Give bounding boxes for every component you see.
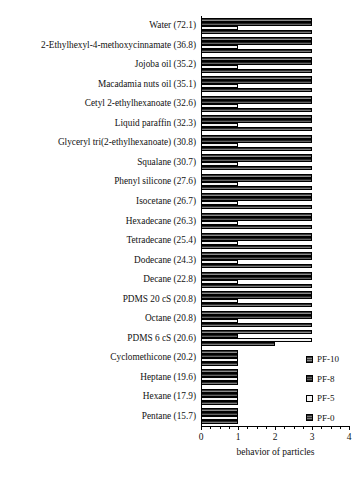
x-tick-minor [303,426,304,429]
x-tick-label: 3 [302,432,322,443]
legend-item: PF-10 [306,354,339,364]
bar-chart: Water (72.1)2-Ethylhexyl-4-methoxycinnam… [0,0,363,478]
x-tick-minor [247,426,248,429]
bar-pf-0 [201,381,238,385]
bar-group [201,328,349,348]
bar-pf-0 [201,362,238,366]
category-label: Pentane (15.7) [0,411,196,421]
bar-pf-0 [201,166,312,170]
bar-group [201,309,349,329]
x-tick-minor [220,426,221,429]
x-tick-minor [257,426,258,429]
bar-pf-0 [201,147,312,151]
x-tick-label: 0 [191,432,211,443]
x-tick-minor [229,426,230,429]
category-label: Squalane (30.7) [0,157,196,167]
category-label: Isocetane (26.7) [0,196,196,206]
category-label: Water (72.1) [0,20,196,30]
legend-label: PF-0 [317,413,335,423]
bar-group [201,192,349,212]
category-label: Liquid paraffin (32.3) [0,118,196,128]
x-tick-minor [266,426,267,429]
bar-pf-0 [201,49,312,53]
bar-pf-0 [201,420,238,424]
bar-group [201,94,349,114]
bar-group [201,289,349,309]
bar-group [201,75,349,95]
category-label: Macadamia nuts oil (35.1) [0,79,196,89]
bar-pf-0 [201,69,312,73]
bar-pf-0 [201,108,312,112]
legend-swatch-pf-5 [306,395,313,402]
bar-pf-0 [201,30,312,34]
bar-group [201,153,349,173]
bar-pf-0 [201,245,312,249]
category-label: Heptane (19.6) [0,372,196,382]
x-tick [201,426,202,430]
bar-pf-0 [201,303,312,307]
legend-item: PF-0 [306,413,339,423]
x-tick-minor [210,426,211,429]
bar-group [201,36,349,56]
legend-label: PF-8 [317,374,335,384]
legend-item: PF-5 [306,393,339,403]
bar-group [201,172,349,192]
x-tick [275,426,276,430]
bar-pf-0 [201,401,238,405]
category-label: Octane (20.8) [0,313,196,323]
x-tick [238,426,239,430]
x-axis-title: behavior of particles [201,447,350,457]
category-label: Hexane (17.9) [0,391,196,401]
category-label: Dodecane (24.3) [0,255,196,265]
category-label: Jojoba oil (35.2) [0,59,196,69]
legend-label: PF-5 [317,393,335,403]
legend-swatch-pf-10 [306,356,313,363]
category-label: PDMS 20 cS (20.8) [0,294,196,304]
x-tick-label: 4 [339,432,359,443]
bar-group [201,16,349,36]
x-tick-label: 1 [228,432,248,443]
bar-pf-0 [201,323,312,327]
legend-label: PF-10 [317,354,339,364]
legend-swatch-pf-0 [306,414,313,421]
x-tick [349,426,350,430]
bar-pf-0 [201,186,312,190]
category-label: Hexadecane (26.3) [0,216,196,226]
category-label: 2-Ethylhexyl-4-methoxycinnamate (36.8) [0,40,196,50]
x-tick-label: 2 [265,432,285,443]
bar-group [201,231,349,251]
bar-group [201,55,349,75]
bar-pf-0 [201,284,312,288]
category-label: Tetradecane (25.4) [0,235,196,245]
bar-pf-0 [201,127,312,131]
bar-group [201,114,349,134]
legend-item: PF-8 [306,374,339,384]
category-label: Phenyl silicone (27.6) [0,176,196,186]
x-tick-minor [340,426,341,429]
bar-pf-0 [201,88,312,92]
legend: PF-10PF-8PF-5PF-0 [306,354,339,432]
category-label: PDMS 6 cS (20.6) [0,333,196,343]
bar-pf-0 [201,264,312,268]
legend-swatch-pf-8 [306,375,313,382]
x-tick-minor [294,426,295,429]
bar-pf-0 [201,225,312,229]
category-label: Decane (22.8) [0,274,196,284]
bar-group [201,270,349,290]
category-label: Cyclomethicone (20.2) [0,352,196,362]
bar-group [201,211,349,231]
bar-group [201,133,349,153]
category-label: Glyceryl tri(2-ethylhexanoate) (30.8) [0,137,196,147]
bar-pf-0 [201,342,275,346]
x-tick-minor [284,426,285,429]
bar-group [201,250,349,270]
category-label: Cetyl 2-ethylhexanoate (32.6) [0,98,196,108]
category-label-group: Water (72.1)2-Ethylhexyl-4-methoxycinnam… [0,16,196,426]
bar-pf-0 [201,205,312,209]
